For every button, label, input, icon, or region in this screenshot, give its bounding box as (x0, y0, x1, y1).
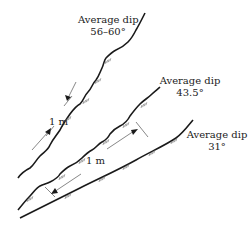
roughness-hatch (64, 174, 65, 177)
roughness-hatch (32, 196, 33, 199)
dip-label-title: Average dip (78, 14, 138, 26)
roughness-hatch (81, 160, 82, 163)
roughness-hatch (88, 98, 89, 101)
dip-label-steep: Average dip 56–60° (78, 14, 138, 38)
dip-label-value: 31° (185, 141, 249, 153)
extension-line (136, 122, 148, 137)
roughness-hatch (106, 140, 107, 143)
roughness-hatch (84, 158, 85, 161)
roughness-hatch (86, 99, 87, 102)
roughness-hatch (82, 159, 83, 162)
roughness-hatch (141, 105, 142, 108)
roughness-hatch (108, 59, 109, 62)
dip-label-value: 43.5° (158, 87, 222, 99)
spacing-label-medium-shallow: 1 m (86, 155, 105, 167)
dip-label-medium: Average dip 43.5° (158, 75, 222, 99)
dip-label-title: Average dip (158, 75, 222, 87)
roughness-hatch (144, 103, 145, 106)
roughness-hatch (98, 79, 99, 82)
roughness-hatch (62, 175, 63, 178)
roughness-hatch (61, 176, 62, 179)
roughness-hatch (110, 58, 111, 61)
roughness-hatch (97, 80, 98, 83)
roughness-hatch (65, 196, 66, 199)
dip-label-value: 56–60° (78, 26, 138, 38)
roughness-hatch (103, 142, 104, 145)
roughness-hatch (123, 125, 124, 128)
spacing-label-steep-medium: 1 m (49, 116, 68, 128)
roughness-hatch (29, 198, 30, 201)
roughness-hatch (146, 102, 147, 105)
roughness-hatch (143, 104, 144, 107)
arrowhead-icon (51, 188, 58, 194)
roughness-hatch (83, 101, 84, 104)
roughness-hatch (67, 195, 68, 198)
roughness-hatch (126, 123, 127, 126)
arrow-shaft (32, 132, 48, 150)
arrowhead-icon (131, 129, 138, 135)
roughness-hatch (59, 177, 60, 180)
roughness-hatch (100, 78, 101, 81)
dip-label-title: Average dip (185, 129, 249, 141)
roughness-hatch (125, 124, 126, 127)
roughness-hatch (30, 197, 31, 200)
roughness-hatch (108, 139, 109, 142)
dip-label-shallow: Average dip 31° (185, 129, 249, 153)
roughness-hatch (85, 100, 86, 103)
roughness-hatch (128, 122, 129, 125)
arrow-shaft (68, 82, 76, 98)
roughness-hatch (105, 61, 106, 64)
joint-line-medium (18, 87, 160, 210)
roughness-hatch (70, 116, 71, 119)
roughness-hatch (107, 60, 108, 63)
roughness-hatch (105, 141, 106, 144)
